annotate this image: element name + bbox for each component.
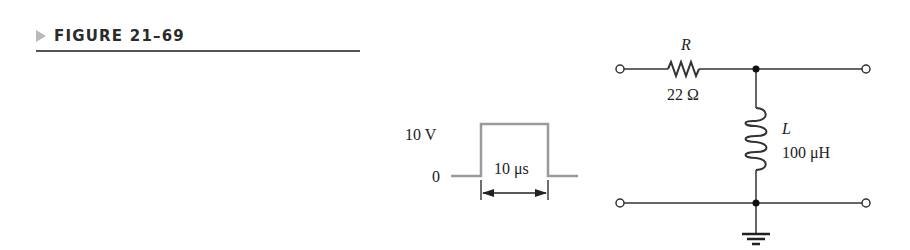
input-terminal-top [616,65,624,73]
input-terminal-bottom [616,199,624,207]
output-terminal-bottom [862,199,870,207]
arrowhead-left-icon [482,189,494,197]
pulse-width-label: 10 μs [494,160,529,178]
pulse-low-label: 0 [432,168,440,185]
inductor-coil [746,108,767,170]
inductor-value-label: 100 μH [782,144,831,162]
pulse-high-label: 10 V [405,126,437,143]
arrowhead-right-icon [535,189,547,197]
output-terminal-top [862,65,870,73]
inductor-symbol-label: L [781,120,791,137]
input-pulse: 10 V 0 10 μs [405,124,578,200]
resistor-value-label: 22 Ω [667,86,699,103]
junction-node-top [753,66,760,73]
diagram-canvas: 10 V 0 10 μs R 22 Ω L 100 μH [0,0,910,250]
resistor-symbol-label: R [680,36,691,53]
resistor-symbol [668,62,699,76]
ground-symbol-icon [742,234,770,244]
junction-node-bottom [753,200,760,207]
